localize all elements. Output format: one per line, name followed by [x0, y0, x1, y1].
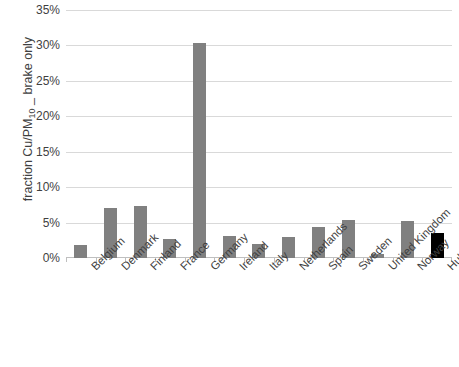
x-axis-category-label: Italy [267, 264, 275, 272]
bar-slot [244, 10, 274, 258]
y-axis-tick-label: 15% [22, 146, 60, 158]
x-axis-category-label: Hulskotte et al. (2014) [445, 264, 453, 272]
y-axis-tick-label: 30% [22, 39, 60, 51]
y-axis-tick-label: 35% [22, 4, 60, 16]
x-axis-category-label: France [178, 264, 186, 272]
x-axis-category-labels: BelgiumDenmarkFinlandFranceGermanyIrelan… [66, 264, 452, 364]
bar-slot [185, 10, 215, 258]
bar-slot [66, 10, 96, 258]
bar-slot [125, 10, 155, 258]
bar-slot [393, 10, 423, 258]
y-axis-tick-label: 5% [22, 217, 60, 229]
bar-slot [274, 10, 304, 258]
x-axis-category-label: Spain [326, 264, 334, 272]
x-axis-category-label: Netherlands [297, 264, 305, 272]
plot-area [66, 10, 452, 258]
y-axis-tick-label: 25% [22, 75, 60, 87]
bar[interactable] [193, 43, 206, 258]
x-axis-category-label: Ireland [237, 264, 245, 272]
bar-series [66, 10, 452, 258]
bar-chart-figure: fraction Cu/PM10 _ brake only 35%30%25%2… [0, 0, 459, 367]
x-axis-category-label: Sweden [356, 264, 364, 272]
bar-slot [96, 10, 126, 258]
bar-slot [214, 10, 244, 258]
y-axis-tick-labels: 35%30%25%20%15%10%5%0% [22, 0, 60, 268]
x-axis-category-label: United Kingdom [386, 264, 394, 272]
y-axis-tick-label: 10% [22, 181, 60, 193]
bar[interactable] [74, 245, 87, 258]
y-axis-tick-label: 0% [22, 252, 60, 264]
x-axis-category-label: Germany [208, 264, 216, 272]
x-axis-category-label: Norway [415, 264, 423, 272]
y-axis-tick-label: 20% [22, 110, 60, 122]
x-axis-category-label: Finland [148, 264, 156, 272]
bar-slot [155, 10, 185, 258]
x-axis-category-label: Belgium [89, 264, 97, 272]
bar-slot [304, 10, 334, 258]
x-axis-category-label: Denmark [119, 264, 127, 272]
bar-slot [333, 10, 363, 258]
bar-slot [363, 10, 393, 258]
